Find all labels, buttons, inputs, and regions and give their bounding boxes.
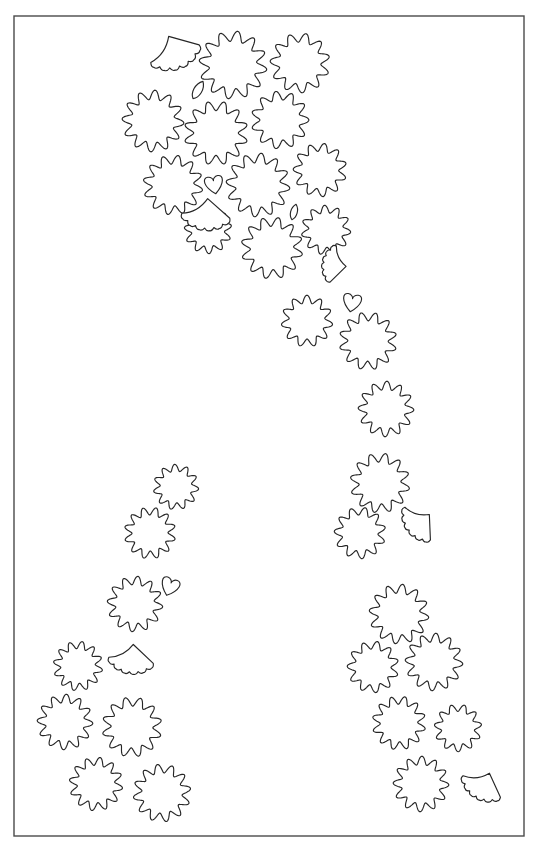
flower-blossom-shape: [242, 218, 302, 278]
line-art-illustration: [0, 0, 541, 853]
flower-blossom-shape: [373, 697, 425, 749]
flower-blossom-shape: [103, 698, 161, 756]
flower-blossom-shape: [185, 102, 247, 164]
flower-blossom-shape: [340, 313, 396, 369]
artwork-canvas: Floral Line-Art Pattern Sheet Black-outl…: [0, 0, 541, 853]
flower-blossom-shape: [125, 508, 175, 558]
flower-blossom-shape: [351, 454, 410, 513]
